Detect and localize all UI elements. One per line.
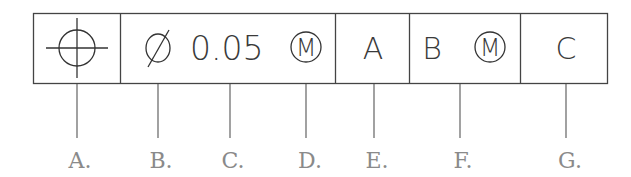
- callout-label-f: F.: [454, 148, 473, 173]
- tolerance-value: 0.05: [190, 29, 263, 68]
- leader-lines: [77, 84, 566, 138]
- tertiary-datum: C: [556, 31, 577, 66]
- modifier-m-icon: M: [475, 32, 505, 62]
- primary-datum: A: [363, 31, 384, 66]
- callout-label-e: E.: [365, 148, 388, 173]
- callout-label-g: G.: [558, 148, 582, 173]
- callout-label-c: C.: [221, 148, 244, 173]
- modifier-m-text: M: [296, 34, 317, 62]
- callout-label-d: D.: [298, 148, 322, 173]
- callout-label-a: A.: [68, 148, 92, 173]
- modifier-m-text: M: [480, 34, 501, 62]
- callout-label-b: B.: [149, 148, 172, 173]
- diameter-icon: [146, 30, 170, 67]
- feature-control-frame-diagram: 0.05 M A B M C A. B. C. D. E. F. G.: [0, 0, 631, 177]
- secondary-datum: B: [422, 31, 442, 66]
- modifier-m-icon: M: [291, 32, 321, 62]
- position-icon: [46, 18, 108, 78]
